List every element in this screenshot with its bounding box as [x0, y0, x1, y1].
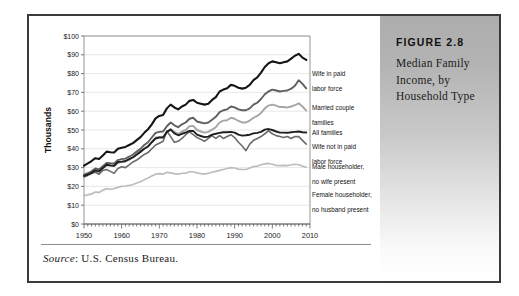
caption-inner: FIGURE 2.8 Median Family Income, by Hous… — [396, 36, 494, 105]
y-axis-tick-label: $20 — [67, 183, 79, 190]
x-axis-tick-label: 2000 — [264, 231, 280, 240]
y-axis-tick-label: $70 — [67, 89, 79, 96]
x-axis-tick-label: 1980 — [189, 231, 205, 240]
y-axis-tick-label: $0 — [71, 221, 79, 228]
chart-area: $0$10$20$30$40$50$60$70$80$90$1001950196… — [29, 16, 381, 281]
x-axis-tick-label: 1950 — [76, 231, 92, 240]
legend-label-all-families: All families — [312, 122, 343, 137]
legend-line-1: Female householder, — [312, 191, 372, 198]
legend-line-1: Wife in paid — [312, 70, 345, 77]
y-axis-tick-label: $30 — [67, 164, 79, 171]
legend-line-1: Wife not in paid — [312, 143, 356, 150]
legend-label-wife-in-paid-labor-force: Wife in paid labor force — [312, 63, 345, 93]
figure-page: $0$10$20$30$40$50$60$70$80$90$1001950196… — [0, 0, 519, 296]
source-divider — [41, 244, 371, 245]
y-axis-tick-label: $10 — [67, 202, 79, 209]
figure-number: FIGURE 2.8 — [396, 36, 494, 48]
x-axis-tick-label: 1990 — [226, 231, 242, 240]
legend-line-1: Married couple — [312, 104, 354, 111]
caption-panel: FIGURE 2.8 Median Family Income, by Hous… — [380, 16, 499, 281]
figure-box: $0$10$20$30$40$50$60$70$80$90$1001950196… — [27, 14, 501, 283]
x-axis-tick-label: 2010 — [302, 231, 318, 240]
series-line — [84, 103, 306, 177]
series-line — [84, 131, 306, 176]
legend-label-female-householder: Female householder, no husband present — [312, 184, 372, 214]
y-axis-tick-label: $100 — [63, 33, 79, 40]
x-axis-tick-label: 1960 — [113, 231, 129, 240]
legend-line-2: no husband present — [312, 206, 369, 213]
y-axis-tick-label: $80 — [67, 70, 79, 77]
source-prefix: Source — [43, 252, 75, 264]
x-axis-tick-label: 1970 — [151, 231, 167, 240]
source-note: Source: U.S. Census Bureau. — [43, 252, 178, 264]
figure-title: Median Family Income, by Household Type — [396, 55, 494, 105]
y-axis-tick-label: $50 — [67, 127, 79, 134]
legend-line-1: Male householder, — [312, 163, 364, 170]
y-axis-tick-label: $90 — [67, 51, 79, 58]
y-axis-title: Thousands — [43, 107, 53, 153]
legend-label-male-householder: Male householder, no wife present — [312, 156, 364, 186]
legend-line-2: labor force — [312, 85, 342, 92]
y-axis-tick-label: $60 — [67, 108, 79, 115]
source-value: U.S. Census Bureau. — [81, 252, 178, 264]
y-axis-tick-label: $40 — [67, 145, 79, 152]
